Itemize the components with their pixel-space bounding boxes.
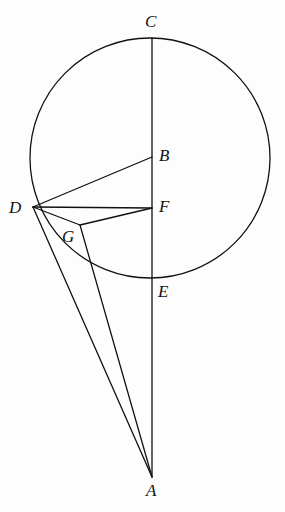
segment-da: [33, 207, 152, 477]
geometry-figure: C B D F G E A: [0, 0, 285, 512]
geometry-canvas: [0, 0, 285, 512]
segment-gf: [80, 208, 152, 225]
point-label-d: D: [9, 199, 21, 216]
point-label-f: F: [159, 198, 169, 215]
segment-ga: [80, 225, 152, 477]
point-label-a: A: [146, 482, 156, 499]
segment-db: [33, 157, 152, 207]
point-label-e: E: [158, 283, 168, 300]
segment-group: [33, 38, 152, 477]
segment-df: [33, 207, 152, 208]
point-label-g: G: [62, 228, 74, 245]
point-label-b: B: [159, 147, 169, 164]
point-label-c: C: [145, 13, 156, 30]
